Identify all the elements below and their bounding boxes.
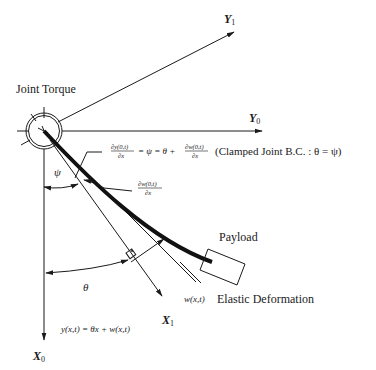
axis-x1-label: X1 bbox=[161, 313, 174, 328]
svg-text:∂y(0,t): ∂y(0,t) bbox=[111, 143, 128, 151]
theta-label: θ bbox=[83, 281, 89, 293]
payload-label: Payload bbox=[219, 230, 258, 244]
axis-y1 bbox=[58, 32, 234, 122]
axis-y0-label: Y0 bbox=[249, 111, 260, 126]
svg-text:= ψ = θ +: = ψ = θ + bbox=[138, 146, 175, 156]
psi-label: ψ bbox=[54, 166, 61, 178]
flexible-link bbox=[44, 131, 212, 262]
svg-text:∂x: ∂x bbox=[145, 189, 151, 196]
axis-x0-label: X0 bbox=[32, 349, 45, 364]
joint-torque-label: Joint Torque bbox=[16, 82, 76, 96]
boundary-condition-equation: ∂y(0,t) ∂x = ψ = θ + ∂w(0,t) ∂x (Clamped… bbox=[111, 143, 342, 159]
svg-text:∂w(0,t): ∂w(0,t) bbox=[138, 180, 157, 188]
svg-text:(Clamped Joint B.C. : θ = ψ): (Clamped Joint B.C. : θ = ψ) bbox=[215, 145, 342, 158]
theta-arc bbox=[46, 260, 128, 273]
psi-arc bbox=[44, 184, 78, 188]
displacement-equation: y(x,t) = θx + w(x,t) bbox=[60, 324, 130, 334]
axis-y1-label: Y1 bbox=[224, 12, 235, 27]
deformation-label: Elastic Deformation bbox=[217, 292, 314, 306]
flexible-arm-diagram: Joint Torque Y1 Y0 X1 X0 ∂y(0,t) ∂x = ψ … bbox=[0, 0, 376, 370]
svg-text:∂w(0,t): ∂w(0,t) bbox=[185, 143, 204, 151]
deformation-symbol: w(x,t) bbox=[184, 294, 205, 304]
deformation-leader bbox=[180, 262, 201, 283]
slope-equation: ∂w(0,t) ∂x bbox=[138, 180, 162, 196]
payload-box bbox=[200, 249, 245, 285]
svg-text:∂x: ∂x bbox=[118, 152, 124, 159]
axis-x1 bbox=[50, 140, 162, 296]
svg-text:∂x: ∂x bbox=[192, 152, 198, 159]
deformation-arrow bbox=[131, 239, 164, 262]
